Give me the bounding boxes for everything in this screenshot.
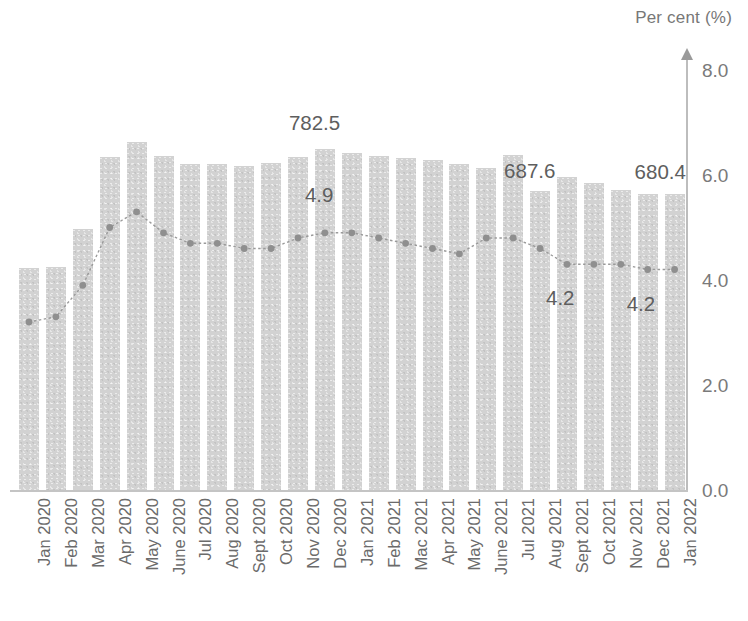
bar-jan-2021 [342, 153, 362, 490]
bar-may-2020 [127, 142, 147, 490]
data-label-bar-aug-2021: 687.6 [504, 161, 555, 182]
x-tick-may-2021: May 2021 [466, 498, 483, 570]
x-tick-mac-2021: Mac 2021 [413, 498, 430, 570]
x-tick-nov-2021: Nov 2021 [628, 498, 645, 569]
x-tick-apr-2020: Apr 2020 [117, 498, 134, 565]
x-tick-dec-2021: Dec 2021 [655, 498, 672, 569]
bar-jan-2022 [665, 194, 685, 490]
x-tick-jul-2021: Jul 2021 [520, 498, 537, 560]
y-axis-line [686, 58, 688, 492]
bar-feb-2020 [46, 267, 66, 490]
bar-jan-2020 [19, 268, 39, 490]
bar-dec-2021 [638, 194, 658, 490]
data-label-bar-dec-2020: 782.5 [289, 113, 340, 134]
x-tick-jan-2020: Jan 2020 [36, 498, 53, 566]
x-axis-line [10, 490, 688, 492]
bar-sept-2021 [557, 177, 577, 490]
bar-feb-2021 [369, 156, 389, 490]
bar-june-2021 [476, 168, 496, 490]
y-axis-arrow-icon [681, 48, 693, 60]
bar-june-2020 [154, 156, 174, 490]
bar-jul-2021 [503, 155, 523, 490]
x-tick-aug-2021: Aug 2021 [547, 498, 564, 569]
y-tick-0.0: 0.0 [702, 481, 728, 500]
y-tick-6.0: 6.0 [702, 166, 728, 185]
x-tick-nov-2020: Nov 2020 [305, 498, 322, 569]
x-tick-mar-2020: Mar 2020 [90, 498, 107, 568]
x-tick-june-2021: June 2021 [493, 498, 510, 575]
x-tick-jan-2021: Jan 2021 [359, 498, 376, 566]
y-axis-title: Per cent (%) [635, 8, 732, 28]
x-tick-sept-2021: Sept 2021 [574, 498, 591, 573]
bar-oct-2020 [261, 163, 281, 490]
x-tick-oct-2020: Oct 2020 [278, 498, 295, 565]
x-tick-dec-2020: Dec 2020 [332, 498, 349, 569]
y-tick-8.0: 8.0 [702, 61, 728, 80]
chart-root: Per cent (%) 8.06.04.02.00.0 Jan 2020Feb… [0, 0, 748, 621]
bar-mac-2021 [396, 158, 416, 490]
bar-sept-2020 [234, 166, 254, 490]
bar-apr-2020 [100, 157, 120, 490]
plot-area [14, 70, 686, 490]
data-label-bar-jan-2022: 680.4 [635, 162, 686, 183]
x-tick-oct-2021: Oct 2021 [601, 498, 618, 565]
bar-nov-2020 [288, 157, 308, 490]
x-tick-sept-2020: Sept 2020 [251, 498, 268, 573]
x-tick-feb-2021: Feb 2021 [386, 498, 403, 568]
x-tick-june-2020: June 2020 [171, 498, 188, 575]
bar-mar-2020 [73, 229, 93, 490]
x-tick-aug-2020: Aug 2020 [224, 498, 241, 569]
x-tick-apr-2021: Apr 2021 [440, 498, 457, 565]
x-tick-jan-2022: Jan 2022 [682, 498, 699, 566]
x-tick-may-2020: May 2020 [144, 498, 161, 570]
y-tick-4.0: 4.0 [702, 271, 728, 290]
bar-nov-2021 [611, 190, 631, 490]
data-label-line-dec-2020: 4.9 [305, 185, 334, 206]
data-label-line-sept-2021: 4.2 [546, 288, 575, 309]
x-tick-feb-2020: Feb 2020 [63, 498, 80, 568]
bar-aug-2020 [207, 164, 227, 490]
bar-may-2021 [449, 164, 469, 490]
x-tick-jul-2020: Jul 2020 [197, 498, 214, 560]
bar-oct-2021 [584, 183, 604, 490]
bar-apr-2021 [423, 160, 443, 490]
y-tick-2.0: 2.0 [702, 376, 728, 395]
bar-aug-2021 [530, 191, 550, 490]
data-label-line-dec-2021: 4.2 [627, 294, 656, 315]
bar-jul-2020 [180, 164, 200, 490]
